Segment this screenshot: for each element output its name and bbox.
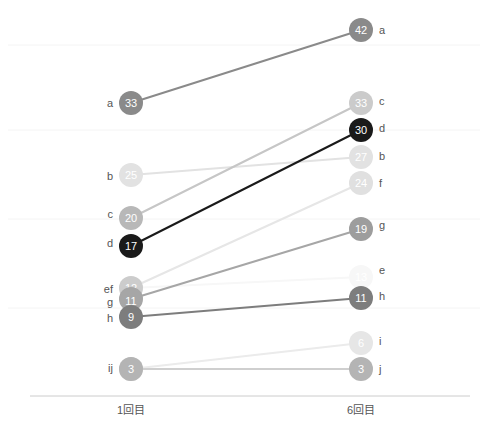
- slope-chart-canvas: 25 12 12 3 3: [0, 0, 488, 430]
- slope-line-d: [131, 130, 361, 246]
- node-value: 20: [125, 212, 137, 224]
- node-b-left[interactable]: 25: [119, 163, 143, 187]
- series-label-f-right: f: [379, 177, 383, 189]
- series-label-b-right: b: [379, 150, 385, 162]
- node-d-left[interactable]: 17: [119, 234, 143, 258]
- slope-line-e: [131, 277, 361, 288]
- slope-chart: 25 12 12 3 3: [0, 0, 488, 430]
- slope-lines: [131, 30, 361, 369]
- node-value: 25: [125, 169, 137, 181]
- slope-line-g: [131, 229, 361, 299]
- node-value: 19: [355, 223, 367, 235]
- node-value: 33: [125, 97, 137, 109]
- node-value: 6: [358, 337, 364, 349]
- node-j-right[interactable]: 3: [349, 357, 373, 381]
- node-h-right[interactable]: 11: [349, 286, 373, 310]
- series-label-h-left: h: [107, 312, 113, 324]
- node-j-left[interactable]: 3: [119, 357, 143, 381]
- node-value: 9: [128, 311, 134, 323]
- node-value: 33: [355, 97, 367, 109]
- node-value: 3: [358, 363, 364, 375]
- series-label-ef-left: ef: [104, 283, 114, 295]
- node-i-right[interactable]: 6: [349, 331, 373, 355]
- node-value: 17: [125, 240, 137, 252]
- node-d-right[interactable]: 30: [349, 118, 373, 142]
- node-h-left[interactable]: 9: [119, 305, 143, 329]
- slope-line-i: [131, 343, 361, 369]
- series-label-g-right: g: [379, 219, 385, 231]
- series-label-e-right: e: [379, 264, 385, 276]
- series-label-h-right: h: [379, 290, 385, 302]
- left-nodes: 25 12 12 3 3: [119, 91, 143, 381]
- node-value: 3: [128, 363, 134, 375]
- gridlines: [8, 45, 480, 308]
- node-c-left[interactable]: 20: [119, 206, 143, 230]
- slope-line-a: [131, 30, 361, 103]
- node-a-right[interactable]: 42: [349, 18, 373, 42]
- series-label-ij-left: ij: [108, 362, 113, 374]
- node-value: 27: [355, 151, 367, 163]
- node-b-right[interactable]: 27: [349, 145, 373, 169]
- node-value: 13: [355, 271, 367, 283]
- series-label-d-left: d: [107, 237, 113, 249]
- series-label-i-right: i: [379, 335, 381, 347]
- series-label-g-left: g: [107, 296, 113, 308]
- series-label-a-right: a: [379, 24, 386, 36]
- node-value: 24: [355, 177, 367, 189]
- x-axis-tick-left: 1回目: [117, 404, 145, 416]
- node-g-right[interactable]: 19: [349, 217, 373, 241]
- node-value: 11: [355, 292, 366, 304]
- series-label-c-left: c: [108, 208, 114, 220]
- node-f-right[interactable]: 24: [349, 171, 373, 195]
- node-e-right[interactable]: 13: [349, 265, 373, 289]
- series-label-a-left: a: [107, 97, 114, 109]
- node-c-right[interactable]: 33: [349, 91, 373, 115]
- node-a-left[interactable]: 33: [119, 91, 143, 115]
- series-label-c-right: c: [379, 95, 385, 107]
- left-series-labels: a b c d ef g h ij: [104, 97, 114, 374]
- right-series-labels: a c d b f g e h i j: [378, 24, 386, 375]
- right-nodes: 13 27 24 6 33: [349, 18, 373, 381]
- slope-line-f: [131, 183, 361, 288]
- series-label-d-right: d: [379, 122, 385, 134]
- series-label-b-left: b: [107, 170, 113, 182]
- node-value: 30: [355, 124, 367, 136]
- series-label-j-right: j: [378, 363, 381, 375]
- x-axis-tick-right: 6回目: [347, 404, 375, 416]
- node-value: 42: [355, 24, 367, 36]
